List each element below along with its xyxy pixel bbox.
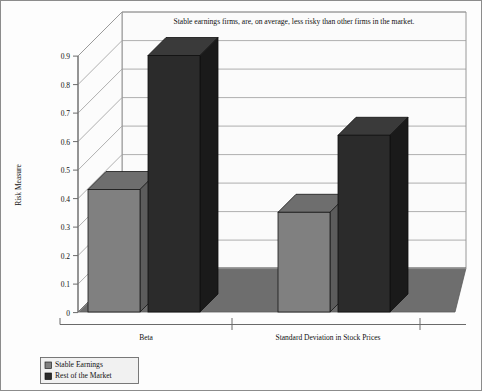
x-category-label-beta: Beta: [139, 333, 153, 342]
bar-rest-of-market-stddev[interactable]: [338, 117, 408, 312]
legend-swatch-stable-earnings: [45, 362, 52, 369]
y-tick-label: 0.3: [61, 223, 71, 232]
legend-swatch-rest-of-market: [45, 373, 52, 380]
legend-label-rest-of-market: Rest of the Market: [55, 371, 113, 380]
y-tick-label: 0.9: [61, 52, 71, 61]
legend-item-rest-of-market[interactable]: Rest of the Market: [45, 371, 113, 380]
y-tick-label: 0.2: [61, 252, 71, 261]
chart-container: 0.9 0.8 0.7 0.6 0.5 0.4 0.3 0.2 0.1 0 Ri…: [0, 0, 482, 391]
y-tick-label: 0.5: [61, 166, 71, 175]
bar-stable-earnings-stddev[interactable]: [278, 194, 348, 312]
y-tick-label: 0.6: [61, 138, 71, 147]
y-tick-label: 0.4: [61, 195, 71, 204]
y-tick-label: 0.1: [61, 280, 71, 289]
bar-stable-earnings-beta[interactable]: [88, 172, 158, 313]
y-tick-label: 0.7: [61, 109, 71, 118]
y-tick-label: 0: [66, 309, 70, 318]
legend-label-stable-earnings: Stable Earnings: [55, 360, 103, 369]
y-axis-title: Risk Measure: [14, 164, 23, 206]
legend: Stable Earnings Rest of the Market: [41, 358, 139, 384]
bar-chart-3d: 0.9 0.8 0.7 0.6 0.5 0.4 0.3 0.2 0.1 0 Ri…: [0, 0, 482, 391]
y-tick-label: 0.8: [61, 81, 71, 90]
chart-title: Stable earnings firms, are, on average, …: [173, 17, 414, 26]
bar-rest-of-market-beta[interactable]: [148, 38, 218, 313]
x-category-label-stddev: Standard Deviation in Stock Prices: [276, 333, 381, 342]
